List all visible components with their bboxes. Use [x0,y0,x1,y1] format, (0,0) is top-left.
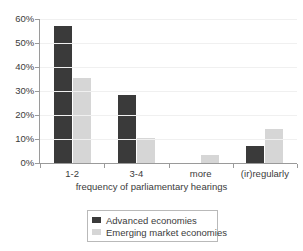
y-axis-tick [35,139,39,140]
legend-item-emerging: Emerging market economies [92,226,212,238]
gridline [40,115,297,116]
y-axis-tick [35,115,39,116]
y-axis-labels: 0%10%20%30%40%50%60% [0,0,36,176]
bar [54,26,72,163]
y-axis-tick [35,163,39,164]
gridline [40,67,297,68]
plot-area: 0%10%20%30%40%50%60% 1-23-4more(ir)regul… [0,0,303,176]
x-axis-tick [40,164,41,168]
y-axis-tick-label: 40% [15,62,34,72]
x-axis-tick-label: more [190,168,212,179]
x-axis-tick-label: (ir)regularly [241,168,289,179]
bar [246,146,264,163]
y-axis-tick [35,67,39,68]
x-axis-tick-label: 1-2 [65,168,79,179]
bar-chart: 0%10%20%30%40%50%60% 1-23-4more(ir)regul… [0,0,303,251]
gridline [40,19,297,20]
y-axis-tick-label: 30% [15,86,34,96]
legend-item-advanced: Advanced economies [92,214,212,226]
bar [137,138,155,163]
legend-swatch-icon [92,217,101,223]
bar [201,155,219,163]
x-axis-tick [233,164,234,168]
x-axis-tick [104,164,105,168]
gridline [40,91,297,92]
bar [265,129,283,163]
gridline [40,43,297,44]
y-axis-tick [35,43,39,44]
x-axis-labels: 1-23-4more(ir)regularly [40,168,297,182]
y-axis-tick-label: 50% [15,38,34,48]
y-axis-tick-label: 0% [20,158,34,168]
x-axis-tick [169,164,170,168]
x-axis-tick-label: 3-4 [130,168,144,179]
x-axis-title: frequency of parliamentary hearings [0,181,303,192]
legend-label: Advanced economies [106,215,197,226]
legend-swatch-icon [92,229,101,235]
y-axis-tick-label: 10% [15,134,34,144]
legend: Advanced economies Emerging market econo… [87,210,218,242]
y-axis-tick-label: 60% [15,14,34,24]
legend-label: Emerging market economies [106,227,227,238]
x-axis-tick [297,164,298,168]
y-axis-tick [35,91,39,92]
y-axis-tick-label: 20% [15,110,34,120]
gridline [40,139,297,140]
y-axis-tick [35,19,39,20]
bar [118,95,136,163]
